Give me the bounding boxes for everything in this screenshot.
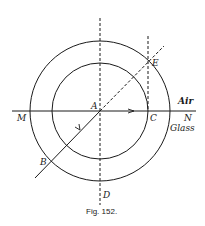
incident-ray-ba <box>35 111 100 178</box>
label-n: N <box>183 113 193 123</box>
label-m: M <box>16 113 27 123</box>
figure-caption: Fig. 152. <box>86 207 117 216</box>
label-a: A <box>90 101 98 111</box>
incident-ray-arrow <box>75 124 80 130</box>
label-e: E <box>151 58 159 68</box>
label-c: C <box>150 113 157 123</box>
label-d: D <box>102 190 110 200</box>
extension-line-ae <box>100 46 164 111</box>
refraction-diagram: M A C N E B D Air Glass Fig. 152. <box>0 0 205 226</box>
label-glass: Glass <box>170 123 195 133</box>
label-air: Air <box>177 96 194 106</box>
label-b: B <box>39 157 47 167</box>
